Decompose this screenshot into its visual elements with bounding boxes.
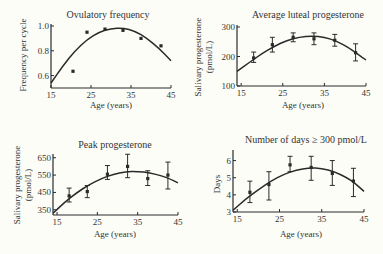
y-tick-label: 550 <box>38 170 52 180</box>
data-point <box>106 173 109 176</box>
panel-days-above-300: 152535453456Number of days ≥ 300 pmol/LA… <box>212 134 369 239</box>
fit-curve <box>233 168 364 210</box>
data-point <box>126 165 129 168</box>
x-axis-label: Age (years) <box>90 100 132 110</box>
y-tick-label: 450 <box>38 187 52 197</box>
y-axis-label: Salivary progesterone <box>193 18 203 97</box>
y-tick-label: 1.0 <box>38 21 50 31</box>
y-tick-label: 5 <box>227 173 232 183</box>
chart-title: Average luteal progesterone <box>252 9 365 20</box>
y-tick-label: 3 <box>227 207 232 217</box>
y-tick-label: 4 <box>227 190 232 200</box>
data-point <box>267 183 270 186</box>
data-point <box>288 163 291 166</box>
x-tick-label: 15 <box>233 214 243 224</box>
data-point <box>159 44 162 47</box>
y-tick-label: 650 <box>38 153 52 163</box>
y-tick-label: 0.8 <box>38 46 50 56</box>
x-axis-label: Age (years) <box>282 100 324 110</box>
x-tick-label: 35 <box>317 214 327 224</box>
y-tick-label: 350 <box>38 205 52 215</box>
x-axis-label: Age (years) <box>280 229 322 239</box>
data-point <box>139 37 142 40</box>
data-point <box>352 180 355 183</box>
data-point <box>71 70 74 73</box>
y-tick-label: 100 <box>222 81 236 91</box>
data-point <box>146 177 149 180</box>
x-tick-label: 25 <box>87 90 97 100</box>
x-tick-label: 35 <box>127 90 137 100</box>
x-tick-label: 15 <box>47 90 57 100</box>
x-tick-label: 45 <box>174 217 184 227</box>
data-point <box>252 56 255 59</box>
y-axis-label: Days <box>212 174 222 193</box>
data-point <box>271 43 274 46</box>
data-point <box>103 28 106 31</box>
x-tick-label: 45 <box>362 88 372 98</box>
x-tick-label: 15 <box>237 88 247 98</box>
y-tick-label: 0.6 <box>38 71 50 81</box>
y-tick-label: 6 <box>227 156 232 166</box>
data-point <box>248 191 251 194</box>
fit-curve <box>53 171 178 213</box>
y-axis-label: Salivary progesterone <box>12 146 22 225</box>
x-tick-label: 25 <box>93 217 103 227</box>
data-point <box>333 39 336 42</box>
data-point <box>312 37 315 40</box>
chart-title: Peak progesterone <box>78 139 152 150</box>
figure-canvas: 152535450.60.81.0Ovulatory frequencyAge … <box>0 0 383 254</box>
y-axis-label: (pmol/L) <box>23 169 33 202</box>
x-axis-label: Age (years) <box>94 229 136 239</box>
chart-title: Number of days ≥ 300 pmol/L <box>245 134 367 145</box>
panel-peak-progesterone: 15253545350450550650Peak progesteroneAge… <box>12 139 183 239</box>
chart-title: Ovulatory frequency <box>66 9 149 20</box>
x-tick-label: 35 <box>133 217 143 227</box>
data-point <box>166 173 169 176</box>
data-point <box>68 194 71 197</box>
y-axis-label: (pmol/L) <box>204 41 214 74</box>
data-point <box>121 29 124 32</box>
y-tick-label: 200 <box>222 52 236 62</box>
x-tick-label: 25 <box>275 214 285 224</box>
fit-curve <box>51 28 171 83</box>
x-tick-label: 45 <box>360 214 370 224</box>
x-tick-label: 35 <box>320 88 330 98</box>
data-point <box>354 51 357 54</box>
data-point <box>310 166 313 169</box>
fit-curve <box>237 36 366 71</box>
x-tick-label: 25 <box>278 88 288 98</box>
data-point <box>331 172 334 175</box>
y-axis-label: Frequency per cycle <box>18 19 28 92</box>
y-tick-label: 300 <box>222 22 236 32</box>
x-tick-label: 15 <box>53 217 63 227</box>
data-point <box>85 31 88 34</box>
panel-average-luteal-progesterone: 15253545100200300Average luteal progeste… <box>193 9 371 110</box>
data-point <box>86 190 89 193</box>
data-point <box>292 36 295 39</box>
panel-ovulatory-frequency: 152535450.60.81.0Ovulatory frequencyAge … <box>18 9 176 110</box>
x-tick-label: 45 <box>167 90 177 100</box>
